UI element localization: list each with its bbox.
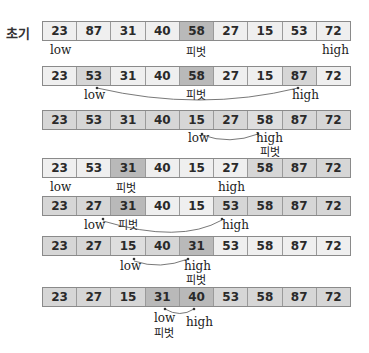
swap-arrow-icon <box>103 220 222 232</box>
swap-arrow-icon <box>165 309 194 314</box>
swap-arrow-icon <box>202 134 258 140</box>
swap-arrows <box>0 0 369 353</box>
swap-arrow-icon <box>134 259 188 265</box>
swap-arrow-icon <box>97 88 298 100</box>
